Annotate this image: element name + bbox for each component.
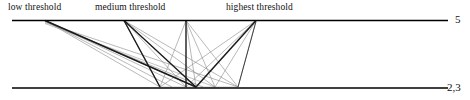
- edge-line-heavy: [45, 21, 196, 88]
- column-label-medium-threshold: medium threshold: [95, 2, 165, 13]
- edge-line: [186, 21, 215, 88]
- edge-group-light: [45, 21, 256, 88]
- threshold-diagram: low threshold medium threshold highest t…: [0, 0, 470, 100]
- edge-line: [45, 23, 238, 88]
- edge-group-heavy: [45, 21, 256, 88]
- graph-canvas: [0, 0, 470, 100]
- level-label-2-3: 2,3: [447, 81, 461, 93]
- edge-line-heavy: [124, 21, 196, 88]
- column-label-highest-threshold: highest threshold: [226, 2, 293, 13]
- edge-line: [186, 21, 238, 88]
- column-label-low-threshold: low threshold: [8, 2, 61, 13]
- level-line-group: [12, 21, 448, 89]
- level-label-5: 5: [455, 13, 461, 25]
